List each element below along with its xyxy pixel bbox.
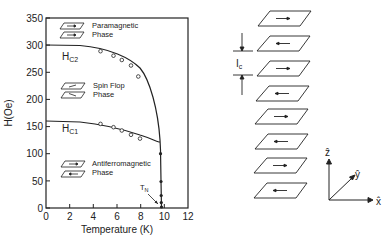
y-tick-labels: 0 50 100 150 200 250 300 350 xyxy=(26,13,43,214)
svg-text:100: 100 xyxy=(26,148,43,159)
phase-boundary xyxy=(161,150,162,208)
svg-text:4: 4 xyxy=(91,211,97,222)
svg-text:8: 8 xyxy=(138,211,144,222)
svg-text:150: 150 xyxy=(26,121,43,132)
svg-text:12: 12 xyxy=(182,211,194,222)
svg-text:50: 50 xyxy=(32,176,44,187)
paramagnetic-phase: Phase xyxy=(92,30,113,39)
svg-text:350: 350 xyxy=(26,13,43,24)
layer-2 xyxy=(257,36,310,51)
tn-label: TN xyxy=(140,183,149,193)
x-axis-label: Temperature (K) xyxy=(81,224,153,235)
svg-text:6: 6 xyxy=(114,211,120,222)
layer-4 xyxy=(256,86,309,101)
z-axis-label: ẑ xyxy=(325,147,330,158)
ic-label: Ic xyxy=(236,58,243,70)
spin-flop-phase: Phase xyxy=(93,90,114,99)
antiferromagnetic-icon xyxy=(61,161,85,177)
layer-3 xyxy=(257,61,310,76)
layer-5 xyxy=(255,109,308,124)
svg-text:0: 0 xyxy=(43,211,49,222)
x-tick-labels: 0 2 4 6 8 10 12 xyxy=(43,211,194,222)
svg-text:10: 10 xyxy=(159,211,171,222)
antiferro-phase: Phase xyxy=(92,168,113,177)
svg-text:200: 200 xyxy=(26,94,43,105)
layer-6 xyxy=(255,134,308,149)
antiferro-label: Antiferromagnetic xyxy=(92,159,151,168)
plot-frame xyxy=(46,18,188,208)
y-axis-label: H(Oe) xyxy=(3,99,14,126)
layer-stack xyxy=(254,11,311,198)
hc2-markers xyxy=(99,49,140,78)
y-axis-dir-label: ŷ xyxy=(355,169,360,180)
svg-text:2: 2 xyxy=(67,211,73,222)
layer-7 xyxy=(254,158,307,173)
x-axis-dir-label: x̂ xyxy=(376,196,381,207)
paramagnetic-icon xyxy=(60,23,84,38)
coordinate-axes xyxy=(327,159,374,203)
x-axis xyxy=(70,204,165,208)
hc1-label: HC1 xyxy=(62,123,78,135)
svg-text:300: 300 xyxy=(26,40,43,51)
paramagnetic-label: Paramagnetic xyxy=(92,21,139,30)
spin-flop-label: Spin Flop xyxy=(93,81,125,90)
figure: 0 50 100 150 200 250 300 350 H(Oe) 0 2 4… xyxy=(0,0,389,239)
hc1-markers xyxy=(99,122,142,140)
spin-flop-icon xyxy=(61,83,85,98)
layer-1 xyxy=(258,11,311,26)
svg-text:250: 250 xyxy=(26,67,43,78)
hc2-label: HC2 xyxy=(62,51,78,63)
layer-8 xyxy=(254,183,307,198)
